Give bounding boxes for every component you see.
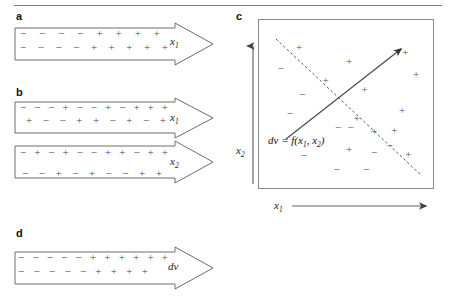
plus-symbol: + (162, 102, 168, 113)
minus-point: − (301, 150, 307, 161)
plus-point: + (391, 124, 397, 135)
minus-symbol: − (48, 102, 54, 113)
plus-symbol: + (144, 42, 150, 53)
minus-point: − (348, 121, 354, 132)
plus-symbol: + (104, 252, 110, 263)
minus-point: − (387, 139, 393, 150)
plus-symbol: + (154, 28, 160, 39)
plus-point: + (413, 69, 419, 80)
plus-symbol: + (119, 252, 125, 263)
minus-point: − (363, 163, 369, 174)
minus-symbol: − (18, 252, 24, 263)
minus-symbol: − (38, 42, 44, 53)
y-axis-arrow (245, 38, 261, 186)
panel-c-plot-area: ++++++++++++−−−−−−−−−− (258, 19, 434, 189)
panel-letter-a: a (16, 10, 22, 22)
minus-symbol: − (47, 252, 53, 263)
plus-symbol: + (135, 28, 141, 39)
arrow-label-dv: dv (168, 260, 178, 272)
plus-point: + (346, 55, 352, 66)
plus-symbol: + (156, 168, 162, 179)
symbol-row: −−−−−++++ (18, 266, 148, 277)
dv-equation-label: dv = f(x1, x2) (268, 134, 324, 149)
minus-symbol: − (34, 102, 40, 113)
symbol-row: −−−−++++ (20, 28, 160, 39)
symbol-row: −−−−−++++++ (18, 252, 168, 263)
minus-symbol: − (110, 115, 116, 126)
plus-point: + (362, 84, 368, 95)
plus-symbol: + (95, 266, 101, 277)
symbol-row: −−−−+++++ (20, 42, 168, 53)
minus-symbol: − (20, 42, 26, 53)
plus-point: + (346, 144, 352, 155)
plus-point: + (405, 148, 411, 159)
symbol-row: −+−+−−++−++ (20, 147, 168, 158)
panel-letter-c: c (236, 10, 242, 22)
minus-symbol: − (91, 147, 97, 158)
minus-point: − (277, 63, 283, 74)
minus-symbol: − (143, 115, 149, 126)
minus-point: − (333, 163, 339, 174)
minus-symbol: − (58, 28, 64, 39)
minus-symbol: − (43, 115, 49, 126)
plus-symbol: + (63, 147, 69, 158)
minus-symbol: − (22, 168, 28, 179)
symbol-row: −−+−+−−++ (22, 168, 162, 179)
minus-symbol: − (72, 168, 78, 179)
figure-root: a −−−−++++ −−−−+++++ x1 b −−−+−−+−+++ +−… (0, 0, 450, 302)
y-axis-label-sub: 2 (241, 150, 245, 159)
minus-point: − (371, 147, 377, 158)
panel-letter-d: d (16, 227, 23, 239)
symbol-row: −−−+−−+−+++ (20, 102, 168, 113)
minus-symbol: − (39, 168, 45, 179)
plus-symbol: + (126, 266, 132, 277)
plus-symbol: + (93, 115, 99, 126)
plus-symbol: + (126, 115, 132, 126)
plus-symbol: + (96, 28, 102, 39)
minus-symbol: − (133, 147, 139, 158)
arrow-label-sub: 1 (175, 117, 179, 126)
minus-symbol: − (64, 266, 70, 277)
minus-symbol: − (61, 252, 67, 263)
plus-symbol: + (90, 252, 96, 263)
equation-suffix: ) (321, 134, 325, 146)
x-axis-label-sub: 1 (279, 205, 283, 214)
plus-point: + (399, 105, 405, 116)
minus-symbol: − (39, 28, 45, 39)
top-horizontal-rule (14, 5, 442, 6)
plus-symbol: + (126, 42, 132, 53)
plus-point: + (323, 75, 329, 86)
minus-symbol: − (55, 42, 61, 53)
minus-point: − (299, 88, 305, 99)
minus-symbol: − (20, 28, 26, 39)
minus-symbol: − (32, 252, 38, 263)
x-axis-arrow (290, 198, 435, 214)
plus-point: + (296, 42, 302, 53)
plus-symbol: + (26, 115, 32, 126)
plus-symbol: + (133, 102, 139, 113)
plus-symbol: + (133, 252, 139, 263)
arrow-label-x1: x1 (170, 35, 179, 50)
plus-symbol: + (91, 42, 97, 53)
x-axis-label: x1 (274, 199, 283, 214)
plus-symbol: + (162, 42, 168, 53)
plus-symbol: + (147, 252, 153, 263)
minus-symbol: − (76, 252, 82, 263)
plus-symbol: + (148, 102, 154, 113)
minus-symbol: − (20, 147, 26, 158)
plus-symbol: + (76, 115, 82, 126)
arrow-label-sub: 1 (175, 41, 179, 50)
symbol-row: +−−++−+−+ (26, 115, 166, 126)
arrow-label-sub: 2 (175, 161, 179, 170)
plus-symbol: + (34, 147, 40, 158)
minus-symbol: − (33, 266, 39, 277)
minus-symbol: − (77, 28, 83, 39)
minus-point: − (287, 108, 293, 119)
plus-symbol: + (89, 168, 95, 179)
minus-symbol: − (18, 266, 24, 277)
minus-symbol: − (77, 147, 83, 158)
plus-point: + (402, 46, 408, 57)
equation-prefix: dv = f(x (268, 134, 303, 146)
plus-symbol: + (105, 102, 111, 113)
arrow-label-b-x1: x1 (170, 111, 179, 126)
